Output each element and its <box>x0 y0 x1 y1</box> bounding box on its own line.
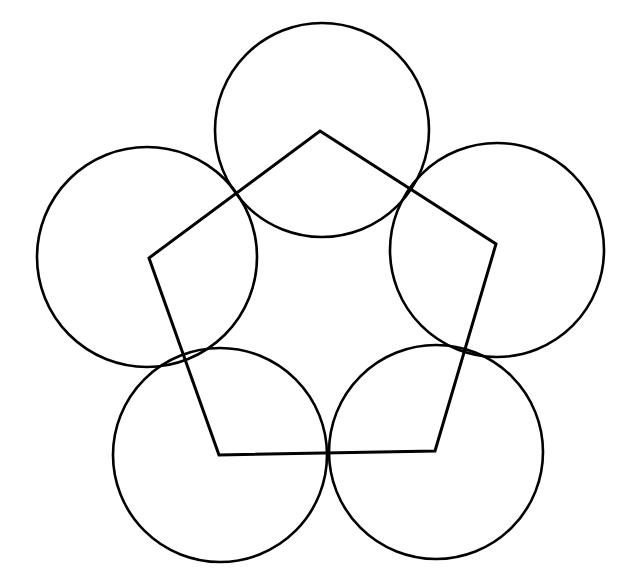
circle-5 <box>37 147 257 367</box>
circle-1 <box>215 23 429 237</box>
circle-2 <box>390 143 604 357</box>
pentagon-circles-diagram <box>0 0 628 581</box>
pentagon <box>149 131 496 455</box>
circles-group <box>37 23 604 562</box>
